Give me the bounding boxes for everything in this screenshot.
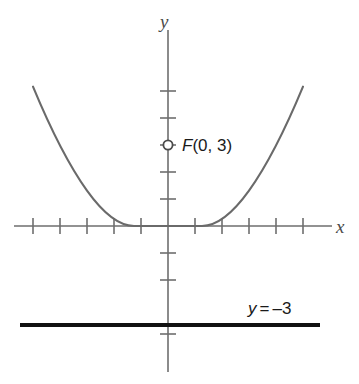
directrix-label-equals: = <box>260 299 270 318</box>
directrix-label: y=–3 <box>248 300 291 317</box>
parabola-figure: y x F(0, 3) y=–3 <box>0 0 359 384</box>
focus-point-marker <box>163 140 172 149</box>
directrix-label-value: –3 <box>272 299 291 318</box>
y-axis-label: y <box>160 12 168 31</box>
focus-label-variable: F <box>182 136 192 155</box>
plot-canvas <box>0 0 359 384</box>
directrix-label-variable: y <box>248 299 257 318</box>
focus-label-coords: (0, 3) <box>192 136 232 155</box>
x-axis-label: x <box>336 217 344 236</box>
focus-label: F(0, 3) <box>182 137 232 154</box>
